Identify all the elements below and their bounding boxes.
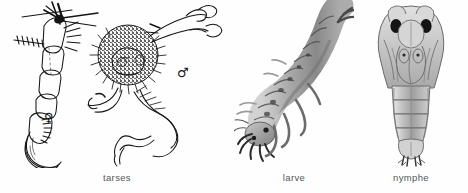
- panel-tarses: ♀ ♂ tarses: [0, 0, 234, 193]
- panel-larve: larve: [234, 0, 354, 193]
- figure-plate: ♀ ♂ tarses: [0, 0, 468, 193]
- female-sex-symbol: ♀: [44, 111, 54, 124]
- nymphe-illustration: [354, 0, 468, 168]
- caption-nymphe: nymphe: [354, 172, 468, 183]
- caption-tarses: tarses: [0, 172, 234, 183]
- caption-larve: larve: [234, 172, 354, 183]
- larve-illustration: [234, 0, 354, 168]
- tarses-illustration: [0, 0, 234, 168]
- male-sex-symbol: ♂: [177, 66, 189, 79]
- panel-nymphe: nymphe: [354, 0, 468, 193]
